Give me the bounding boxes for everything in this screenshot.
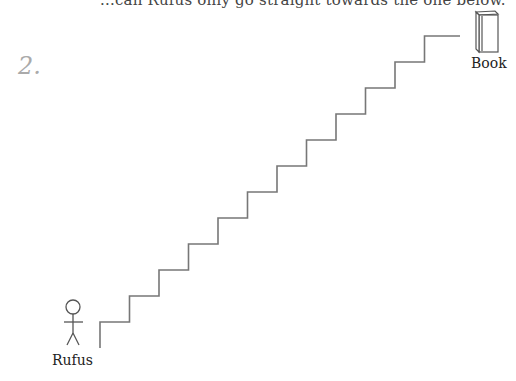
staircase-diagram [0, 0, 516, 381]
book-icon [476, 11, 498, 52]
stick-figure-icon [64, 300, 83, 345]
staircase [100, 36, 460, 348]
book-label: Book [471, 55, 507, 71]
figure-label: Rufus [52, 352, 93, 368]
